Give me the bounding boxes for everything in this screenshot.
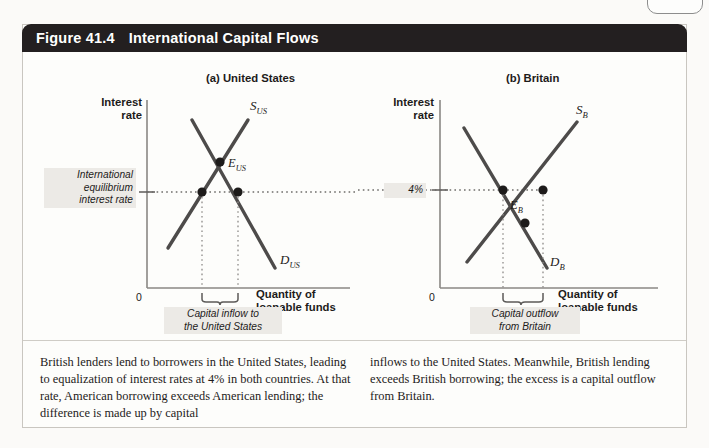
lending-point-us — [197, 187, 206, 196]
y-axis-label-us: Interestrate — [68, 96, 142, 122]
caption-column-left: British lenders lend to borrowers in the… — [40, 354, 356, 422]
equilibrium-label-britain: EB — [510, 198, 523, 215]
chart-panel-united-states: (a) United States Interestrate Qu — [28, 60, 358, 335]
capital-outflow-brace-britain — [503, 293, 543, 305]
equilibrium-point-us — [215, 157, 224, 166]
capital-inflow-brace-us — [202, 293, 238, 305]
chart-panel-britain: (b) Britain Interestrate Q — [358, 60, 688, 335]
figure-header-text: Figure 41.4International Capital Flows — [36, 30, 319, 46]
borrowing-point-britain — [498, 185, 507, 194]
demand-curve-britain — [464, 128, 547, 268]
supply-curve-us — [168, 120, 248, 248]
demand-curve-label-britain: DB — [550, 254, 565, 272]
international-rate-label-us: Internationalequilibriuminterest rate — [44, 168, 136, 208]
equilibrium-label-us: EUS — [228, 156, 246, 173]
lending-point-britain — [538, 185, 547, 194]
page-corner-artifact — [647, 0, 703, 14]
capital-outflow-label-britain: Capital outflowfrom Britain — [470, 307, 580, 334]
caption-column-right: inflows to the United States. Meanwhile,… — [370, 354, 676, 405]
supply-curve-label-us: SUS — [250, 98, 267, 116]
capital-inflow-label-us: Capital inflow tothe United States — [164, 307, 282, 334]
origin-label-us: 0 — [136, 291, 142, 303]
caption-divider — [23, 340, 686, 341]
origin-label-britain: 0 — [429, 291, 435, 303]
figure-title: International Capital Flows — [129, 30, 319, 46]
demand-curve-label-us: DUS — [280, 252, 300, 270]
supply-curve-britain — [467, 122, 577, 262]
equilibrium-point-britain — [520, 218, 529, 227]
y-axis-label-britain: Interestrate — [360, 96, 434, 122]
rate-label-britain: 4% — [384, 183, 426, 198]
supply-curve-label-britain: SB — [576, 102, 588, 120]
figure-page: Figure 41.4International Capital Flows (… — [0, 0, 709, 448]
figure-number: Figure 41.4 — [36, 30, 115, 46]
borrowing-point-us — [233, 187, 242, 196]
